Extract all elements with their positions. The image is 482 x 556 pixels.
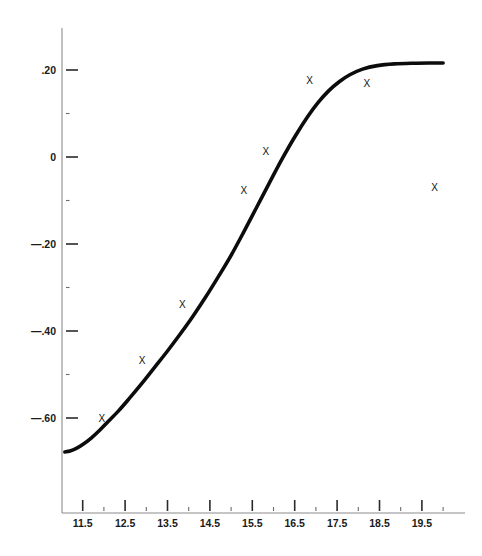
y-tick-label: —.40 — [31, 325, 56, 337]
data-point-marker: X — [306, 75, 313, 86]
x-tick-label: 15.5 — [242, 517, 263, 529]
x-tick-label: 17.5 — [327, 517, 348, 529]
data-point-marker: X — [240, 185, 247, 196]
chart-figure: .200—.20—.40—.60 11.512.513.514.515.516.… — [0, 0, 482, 556]
y-tick-label: .20 — [41, 64, 56, 76]
data-point-marker: X — [263, 146, 270, 157]
y-tick-label: —.60 — [31, 412, 56, 424]
x-tick-label: 16.5 — [284, 517, 305, 529]
y-tick-label: 0 — [50, 151, 56, 163]
data-point-marker: X — [139, 355, 146, 366]
x-tick-label: 13.5 — [157, 517, 178, 529]
data-point-marker: X — [363, 78, 370, 89]
x-tick-label: 12.5 — [115, 517, 136, 529]
x-tick-label: 18.5 — [369, 517, 390, 529]
data-point-marker: X — [431, 182, 438, 193]
x-tick-label: 11.5 — [73, 517, 93, 529]
chart-background — [0, 0, 482, 556]
x-tick-label: 19.5 — [412, 517, 433, 529]
data-point-marker: X — [98, 413, 105, 424]
x-tick-label: 14.5 — [200, 517, 221, 529]
y-tick-label: —.20 — [31, 238, 56, 250]
data-point-marker: X — [179, 299, 186, 310]
scatter-plot-with-fitted-curve: .200—.20—.40—.60 11.512.513.514.515.516.… — [0, 0, 482, 556]
